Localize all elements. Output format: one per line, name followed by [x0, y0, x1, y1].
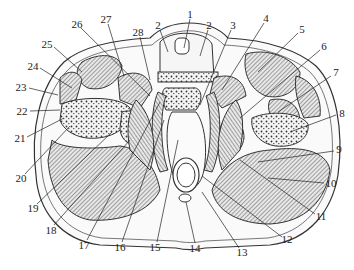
- label-11: 11: [316, 211, 327, 222]
- label-2-right: 2: [206, 20, 212, 31]
- label-20: 20: [16, 173, 27, 184]
- label-27: 27: [101, 14, 112, 25]
- label-9: 9: [336, 144, 342, 155]
- label-5: 5: [299, 24, 305, 35]
- label-16: 16: [115, 242, 126, 253]
- label-12: 12: [282, 234, 293, 245]
- label-25: 25: [42, 39, 53, 50]
- label-22: 22: [17, 106, 28, 117]
- label-3: 3: [230, 20, 236, 31]
- label-28: 28: [133, 27, 144, 38]
- sacrum: [158, 33, 218, 82]
- label-24: 24: [28, 61, 39, 72]
- label-18: 18: [46, 225, 57, 236]
- label-8: 8: [339, 108, 345, 119]
- label-10: 10: [326, 178, 337, 189]
- label-21: 21: [15, 133, 26, 144]
- label-19: 19: [28, 203, 39, 214]
- label-23: 23: [16, 82, 27, 93]
- label-7: 7: [333, 67, 339, 78]
- label-6: 6: [321, 41, 327, 52]
- label-2-left: 2: [155, 20, 161, 31]
- label-17: 17: [79, 240, 90, 251]
- label-13: 13: [237, 247, 248, 258]
- label-26: 26: [72, 19, 83, 30]
- label-14: 14: [190, 243, 201, 254]
- label-15: 15: [150, 242, 161, 253]
- label-1: 1: [187, 9, 193, 20]
- label-4: 4: [263, 13, 269, 24]
